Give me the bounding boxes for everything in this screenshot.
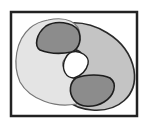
venn-diagram: [0, 0, 148, 123]
